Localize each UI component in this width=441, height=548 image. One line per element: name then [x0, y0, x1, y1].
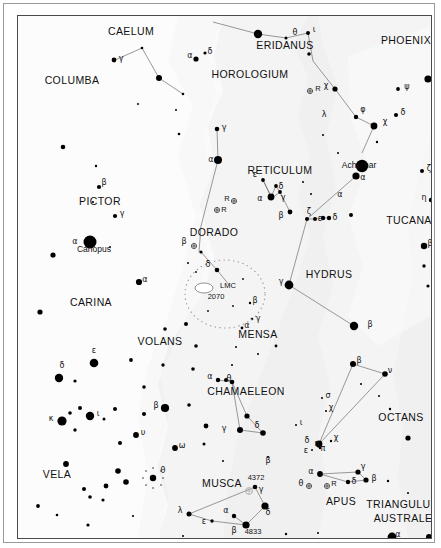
greek-label-7: φ [360, 105, 365, 114]
greek-label-34: β [252, 296, 257, 305]
greek-label-33: α [142, 275, 147, 284]
greek-label-30: ε [318, 214, 322, 223]
greek-label-13: ζ [427, 164, 431, 173]
variable-label-0: R [315, 84, 321, 93]
greek-label-29: ζ [307, 207, 311, 216]
greek-label-27: β [427, 239, 431, 248]
greek-label-21: β [278, 211, 283, 220]
constellation-label-horologium: HOROLOGIUM [212, 68, 289, 80]
constellation-label-hydrus: HYDRUS [306, 268, 353, 280]
constellation-label-phoenix: PHOENIX [381, 34, 431, 46]
greek-label-54: γ [259, 485, 264, 494]
greek-label-42: υ [141, 428, 146, 437]
globular-clusters [246, 488, 253, 495]
greek-label-46: θ [227, 374, 232, 383]
constellation-label-vela: VELA [43, 468, 71, 480]
greek-label-58: ι [300, 418, 303, 427]
greek-label-17: ε [253, 170, 257, 179]
greek-label-5: ψ [404, 82, 409, 91]
constellation-label-tucana: TUCANA [386, 214, 431, 226]
star-label-canopus: Canopus [77, 244, 111, 254]
constellation-label-caelum: CAELUM [108, 25, 154, 37]
greek-label-3: θ [293, 28, 298, 37]
greek-label-63: ε [304, 446, 308, 455]
greek-label-39: κ [49, 414, 54, 423]
deep-sky-label-4833: 4833 [245, 527, 262, 536]
greek-label-31: δ [333, 213, 338, 222]
greek-label-70: ν [388, 366, 393, 375]
greek-label-0: γ [119, 54, 124, 63]
constellation-label-columba: COLUMBA [45, 74, 100, 86]
greek-label-23: γ [120, 209, 125, 218]
greek-label-32: β [367, 320, 372, 329]
constellation-label-octans: OCTANS [378, 411, 423, 423]
deep-sky-label-2070: 2070 [208, 292, 225, 301]
greek-label-26: δ [206, 260, 211, 269]
greek-label-53: β [231, 526, 236, 535]
greek-label-12: α [208, 155, 213, 164]
greek-label-10: λ [322, 110, 327, 119]
greek-label-69: β [356, 356, 361, 365]
greek-label-19: γ [281, 193, 286, 202]
greek-label-25: β [181, 237, 186, 246]
constellation-label-dorado: DORADO [190, 226, 239, 238]
greek-label-20: α [257, 194, 262, 203]
greek-label-22: β [101, 178, 106, 187]
star-label-achernar: Achernar [342, 160, 377, 170]
greek-label-44: θ [161, 466, 166, 475]
sky-map: CAELUMCOLUMBAHOROLOGIUMERIDANUSPHOENIXRE… [18, 16, 431, 538]
greek-label-1: α [187, 51, 192, 60]
greek-label-65: θ [299, 479, 304, 488]
greek-label-6: χ [324, 81, 329, 90]
constellation-label-australe: AUSTRALE [374, 512, 431, 524]
greek-label-49: β [265, 456, 270, 465]
greek-label-47: γ [222, 424, 227, 433]
greek-label-4: ι [313, 25, 316, 34]
greek-label-9: δ [401, 108, 406, 117]
greek-label-51: ε [202, 517, 206, 526]
greek-label-64: α [308, 467, 313, 476]
greek-label-24: α [72, 237, 77, 246]
variable-label-2: R [221, 205, 227, 214]
greek-label-55: δ [266, 508, 271, 517]
deep-sky-label-4372: 4372 [248, 473, 265, 482]
outer-frame: CAELUMCOLUMBAHOROLOGIUMERIDANUSPHOENIXRE… [3, 3, 435, 543]
constellation-label-reticulum: RETICULUM [248, 164, 313, 176]
greek-label-8: χ [383, 117, 388, 126]
variable-label-1: R [224, 194, 230, 203]
greek-label-68: β [371, 474, 376, 483]
greek-label-52: α [223, 506, 228, 515]
constellation-label-musca: MUSCA [202, 477, 242, 489]
greek-label-35: γ [256, 314, 261, 323]
constellation-label-chamaeleon: CHAMAELEON [207, 385, 285, 397]
greek-label-14: η [421, 193, 426, 202]
greek-label-57: χ [329, 403, 334, 412]
greek-label-67: δ [352, 477, 357, 486]
greek-label-11: γ [222, 123, 227, 132]
greek-label-60: χ [334, 433, 339, 442]
greek-label-59: δ [305, 436, 310, 445]
greek-label-61: π [321, 444, 326, 453]
greek-label-45: α [207, 372, 212, 381]
greek-label-56: σ [325, 391, 330, 400]
greek-label-18: δ [279, 182, 284, 191]
constellation-label-volans: VOLANS [138, 335, 183, 347]
inner-frame: CAELUMCOLUMBAHOROLOGIUMERIDANUSPHOENIXRE… [17, 15, 432, 539]
greek-label-50: λ [178, 506, 183, 515]
constellation-label-eridanus: ERIDANUS [256, 39, 313, 51]
constellation-label-carina: CARINA [70, 296, 112, 308]
greek-label-66: γ [361, 462, 366, 471]
constellation-label-apus: APUS [326, 495, 356, 507]
greek-label-38: δ [60, 361, 65, 370]
greek-label-62: η [314, 439, 319, 448]
greek-label-37: ε [92, 346, 96, 355]
greek-label-15: α [360, 173, 365, 182]
milky-way-band [18, 16, 431, 538]
variable-label-3: R [331, 479, 337, 488]
greek-label-48: δ [255, 421, 260, 430]
constellation-label-pictor: PICTOR [79, 195, 121, 207]
greek-label-16: α [337, 190, 342, 199]
greek-label-71: α [395, 530, 400, 538]
deep-sky-label-lmc: LMC [220, 281, 236, 290]
greek-label-43: ω [179, 441, 186, 450]
